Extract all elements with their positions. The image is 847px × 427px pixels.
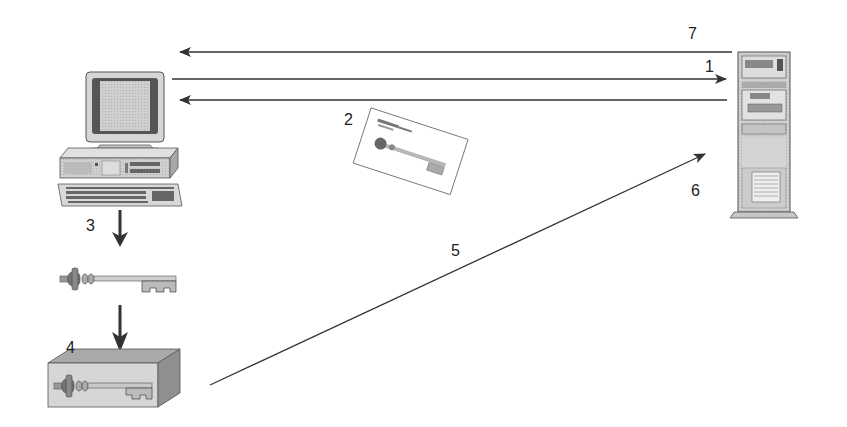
- step-1-label: 1: [705, 59, 714, 75]
- arrow-step5: [210, 154, 705, 385]
- step-5-label: 5: [451, 243, 460, 259]
- key-icon: [60, 268, 176, 292]
- step-6-label: 6: [691, 183, 700, 199]
- step-7-label: 7: [688, 26, 697, 42]
- locked-box-key-icon: [48, 349, 180, 407]
- arrow-step4: [112, 305, 128, 352]
- tower-server-icon: [730, 52, 798, 218]
- diagram-canvas: 7 1 2 3 4 5 6: [0, 0, 847, 427]
- arrow-step3: [112, 210, 128, 247]
- step-4-label: 4: [66, 340, 75, 356]
- desktop-computer-icon: [58, 72, 182, 206]
- diagram-svg: [0, 0, 847, 427]
- certificate-key-icon: [353, 108, 468, 195]
- step-3-label: 3: [86, 218, 95, 234]
- step-2-label: 2: [344, 112, 353, 128]
